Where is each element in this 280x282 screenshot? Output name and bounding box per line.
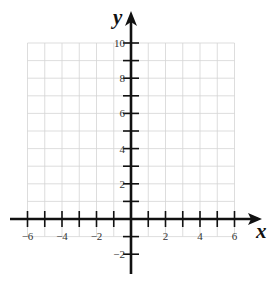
x-tick-label: 4 [197,230,203,242]
x-tick-label: 2 [163,230,169,242]
x-tick-label: −6 [22,230,34,242]
y-tick-label: 6 [120,107,126,119]
y-tick-label: 8 [120,72,126,84]
axes [10,11,262,274]
x-axis-label: x [255,219,267,243]
y-tick-label: 10 [114,37,126,49]
x-tick-label: −2 [91,230,103,242]
y-tick-label: 2 [120,178,126,190]
y-axis-label: y [110,5,123,29]
y-tick-label: 4 [120,143,126,155]
x-tick-label: −4 [56,230,68,242]
y-tick-label: −2 [113,248,125,260]
x-tick-label: 6 [232,230,238,242]
coordinate-plane: −6−4−2246−2246810 x y [0,0,280,282]
